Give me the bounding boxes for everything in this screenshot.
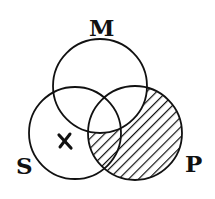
label-s: S	[16, 152, 33, 179]
venn-diagram: M S P	[0, 0, 215, 199]
x-mark-icon	[59, 134, 71, 148]
label-m: M	[89, 14, 114, 41]
label-p: P	[185, 150, 202, 177]
